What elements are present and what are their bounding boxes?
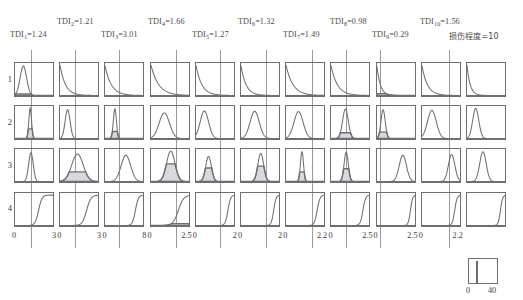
density-curve — [105, 156, 143, 182]
density-panel-r3-c5 — [195, 148, 235, 183]
density-curve — [467, 65, 505, 95]
density-panel-r4-c8 — [330, 192, 370, 227]
density-curve — [377, 195, 415, 225]
legend-min-label: 0 — [466, 286, 470, 295]
density-panel-r1-c9 — [376, 62, 416, 97]
density-panel-r3-c10 — [421, 148, 461, 183]
axis-min-tick-col-6: 0 — [238, 231, 242, 240]
tdi-label-subscript: 3 — [115, 33, 118, 40]
row-label-3: 3 — [1, 160, 12, 170]
density-curve — [286, 65, 324, 95]
axis-min-tick-col-4: 0 — [148, 231, 152, 240]
density-curve — [15, 153, 53, 182]
density-curve — [241, 195, 279, 225]
density-panel-r4-c2 — [59, 192, 99, 227]
tdi-label-value: =3.01 — [118, 30, 137, 39]
axis-max-tick-col-8: 2.5 — [356, 231, 372, 240]
density-panel-r1-c2 — [59, 62, 99, 97]
legend-bar — [476, 261, 478, 283]
density-panel-r2-c9 — [376, 105, 416, 140]
density-panel-r1-c1 — [14, 62, 54, 97]
density-panel-r4-c1 — [14, 192, 54, 227]
density-curve — [196, 195, 234, 225]
density-curve — [467, 109, 505, 139]
tdi-label-value: =1.27 — [209, 30, 228, 39]
density-curve — [196, 111, 234, 139]
tdi-label-subscript: 6 — [252, 20, 255, 27]
density-panel-r3-c11 — [466, 148, 506, 183]
density-curve — [331, 65, 369, 95]
density-panel-r1-c3 — [104, 62, 144, 97]
density-panel-r2-c7 — [285, 105, 325, 140]
density-panel-r2-c10 — [421, 105, 461, 140]
tdi-label-value: =1.56 — [440, 17, 459, 26]
axis-min-tick-col-5: 0 — [193, 231, 197, 240]
axis-max-tick-col-2: 3 — [85, 231, 101, 240]
density-curve — [331, 195, 369, 225]
density-panel-r4-c7 — [285, 192, 325, 227]
axis-max-tick-col-6: 2 — [266, 231, 282, 240]
density-curve — [241, 112, 279, 139]
density-panel-r2-c6 — [240, 105, 280, 140]
tdi-label-5: TDI5=1.27 — [192, 30, 229, 39]
density-panel-r3-c2 — [59, 148, 99, 183]
tdi-density-trellis-figure: TDI2=1.21TDI4=1.66TDI6=1.32TDI8=0.98TDI1… — [0, 0, 523, 300]
density-curve — [331, 152, 369, 181]
density-curve — [422, 111, 460, 139]
density-panel-r1-c8 — [330, 62, 370, 97]
axis-max-tick-col-10: 2.2 — [447, 231, 463, 240]
tdi-label-subscript: 1 — [24, 33, 27, 40]
tdi-label-name: TDI — [372, 30, 386, 39]
tdi-label-subscript: 10 — [434, 20, 440, 27]
axis-max-tick-col-5: 2 — [221, 231, 237, 240]
density-curve — [60, 65, 98, 95]
axis-max-tick-col-3: 8 — [130, 231, 146, 240]
row-label-1: 1 — [1, 74, 12, 84]
density-panel-r3-c9 — [376, 148, 416, 183]
density-curve — [286, 195, 324, 225]
density-curve — [105, 66, 143, 96]
density-panel-r2-c11 — [466, 105, 506, 140]
density-panel-r3-c7 — [285, 148, 325, 183]
axis-min-tick-col-2: 0 — [57, 231, 61, 240]
axis-min-tick-col-9: 0 — [374, 231, 378, 240]
density-panel-r4-c6 — [240, 192, 280, 227]
density-curve — [15, 195, 53, 225]
density-curve — [60, 110, 98, 139]
legend-box — [468, 258, 498, 284]
damage-degree-label: 损伤程度=10 — [449, 30, 499, 41]
density-curve — [105, 109, 143, 139]
tdi-label-4: TDI4=1.66 — [148, 17, 185, 26]
density-panel-r1-c5 — [195, 62, 235, 97]
density-panel-r3-c1 — [14, 148, 54, 183]
density-panel-r1-c11 — [466, 62, 506, 97]
axis-max-tick-col-4: 2.5 — [176, 231, 192, 240]
density-panel-r2-c2 — [59, 105, 99, 140]
density-panel-r2-c8 — [330, 105, 370, 140]
density-shaded-region — [151, 164, 189, 182]
axis-min-tick-col-3: 0 — [102, 231, 106, 240]
tdi-label-value: =1.49 — [300, 30, 319, 39]
density-curve — [196, 65, 234, 95]
tdi-label-7: TDI7=1.49 — [283, 30, 320, 39]
tdi-label-subscript: 4 — [162, 20, 165, 27]
tdi-label-value: =1.24 — [27, 30, 46, 39]
density-curve — [151, 195, 189, 225]
density-curve — [15, 66, 53, 95]
density-curve — [377, 67, 415, 96]
tdi-label-subscript: 9 — [386, 33, 389, 40]
tdi-label-name: TDI — [192, 30, 206, 39]
axis-min-tick-col-1: 0 — [12, 231, 16, 240]
tdi-label-6: TDI6=1.32 — [238, 17, 275, 26]
density-panel-r3-c6 — [240, 148, 280, 183]
density-panel-r4-c5 — [195, 192, 235, 227]
tdi-label-1: TDI1=1.24 — [10, 30, 47, 39]
density-panel-r3-c3 — [104, 148, 144, 183]
axis-min-tick-col-7: 0 — [283, 231, 287, 240]
row-label-2: 2 — [1, 117, 12, 127]
axis-min-tick-col-8: 0 — [328, 231, 332, 240]
tdi-label-name: TDI — [330, 17, 344, 26]
tdi-label-value: =0.98 — [347, 17, 366, 26]
tdi-label-name: TDI — [148, 17, 162, 26]
density-curve — [422, 195, 460, 225]
